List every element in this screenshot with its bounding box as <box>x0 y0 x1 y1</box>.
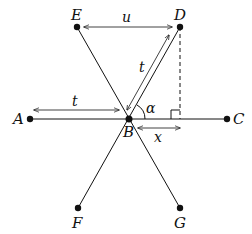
measure-x: x <box>154 129 162 145</box>
label-f: F <box>71 214 83 232</box>
measure-alpha: α <box>146 100 156 116</box>
label-d: D <box>173 6 186 24</box>
measure-t-diagonal: t <box>139 59 145 75</box>
point-a <box>27 116 33 122</box>
measure-u: u <box>122 9 131 25</box>
label-a: A <box>11 110 24 128</box>
point-g <box>177 205 183 211</box>
dimension-t-diagonal <box>127 35 169 110</box>
label-e: E <box>70 6 82 24</box>
label-c: C <box>233 110 245 128</box>
label-b: B <box>122 123 134 141</box>
measure-t-horizontal: t <box>72 93 78 109</box>
label-g: G <box>174 214 186 232</box>
point-f <box>75 205 81 211</box>
point-e <box>74 24 80 30</box>
geometry-diagram: A B C D E F G u t t x α <box>0 0 252 234</box>
point-b <box>126 116 133 123</box>
point-d <box>177 24 183 30</box>
angle-arc <box>137 105 145 119</box>
right-angle-marker <box>171 110 180 119</box>
point-c <box>224 116 230 122</box>
